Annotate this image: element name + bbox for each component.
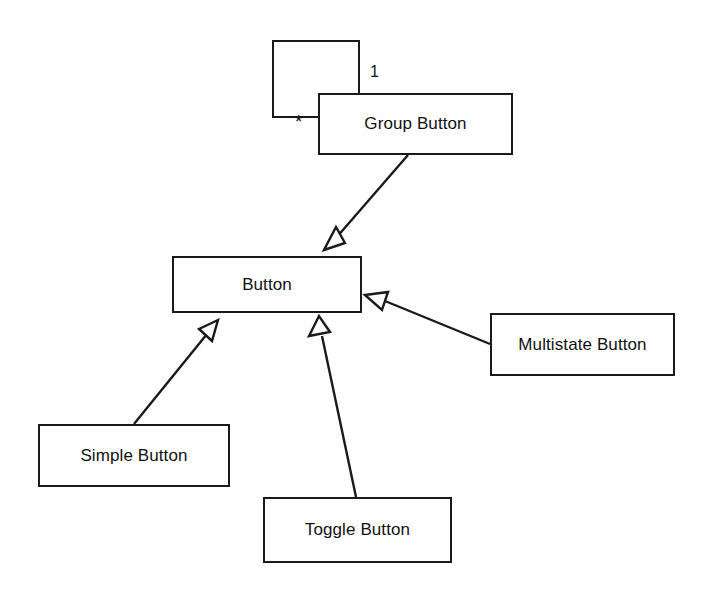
class-box-toggle-button[interactable]: Toggle Button	[263, 497, 452, 563]
class-box-group-button[interactable]: Group Button	[318, 93, 513, 155]
edge-group-to-button	[324, 155, 408, 250]
class-name-group-button: Group Button	[358, 114, 472, 134]
uml-class-diagram-canvas: Group Button Button Simple Button Toggle…	[0, 0, 719, 594]
class-name-button: Button	[236, 275, 298, 295]
edge-toggle-to-button	[309, 316, 356, 497]
class-name-multistate-button: Multistate Button	[512, 335, 652, 355]
class-box-button[interactable]: Button	[172, 256, 362, 313]
generalization-arrowhead-simple	[199, 320, 218, 341]
multiplicity-label-one: 1	[370, 64, 379, 80]
edge-multistate-to-button	[365, 292, 490, 344]
class-box-multistate-button[interactable]: Multistate Button	[490, 313, 675, 376]
generalization-arrowhead-toggle	[309, 316, 330, 336]
multiplicity-label-many: *	[295, 112, 302, 131]
generalization-arrowhead-group	[324, 227, 345, 250]
class-box-simple-button[interactable]: Simple Button	[38, 424, 230, 487]
class-name-toggle-button: Toggle Button	[299, 520, 416, 540]
edge-simple-to-button	[134, 320, 218, 424]
class-name-simple-button: Simple Button	[74, 446, 193, 466]
generalization-arrowhead-multistate	[365, 292, 388, 310]
